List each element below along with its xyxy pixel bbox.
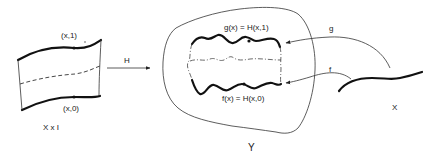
homotopy-diagram: (x,1) (x,0) X x I H Y g(x) = H(x,1) f(x)…	[0, 0, 438, 161]
middle-slice	[20, 66, 100, 84]
label-Y: Y	[248, 142, 255, 153]
left-edge	[18, 60, 22, 110]
right-boundary	[280, 47, 281, 84]
source-space-X	[339, 72, 422, 91]
top-edge-x1	[18, 40, 101, 60]
speck	[84, 41, 85, 42]
point-fx	[242, 82, 245, 85]
point-x0	[72, 95, 75, 98]
label-g-equals-H-x1: g(x) = H(x,1)	[224, 23, 269, 32]
point-x1	[72, 46, 75, 49]
label-g: g	[329, 24, 333, 33]
curve-g	[192, 35, 280, 47]
label-x0: (x,0)	[63, 104, 79, 113]
label-f-equals-H-x0: f(x) = H(x,0)	[222, 94, 265, 103]
point-gx	[247, 39, 250, 42]
bottom-edge-x0	[22, 96, 100, 110]
label-H: H	[124, 56, 130, 65]
left-boundary	[187, 44, 192, 80]
right-edge	[99, 40, 101, 96]
product-space-X-times-I	[18, 40, 101, 110]
label-x1: (x,1)	[61, 31, 77, 40]
arrow-f	[286, 73, 351, 83]
curve-f	[192, 80, 281, 94]
label-X: X	[392, 103, 398, 112]
homotopy-image	[187, 35, 281, 94]
label-X-times-I: X x I	[43, 123, 59, 132]
arrow-g	[286, 37, 390, 68]
middle-curve	[190, 57, 281, 61]
